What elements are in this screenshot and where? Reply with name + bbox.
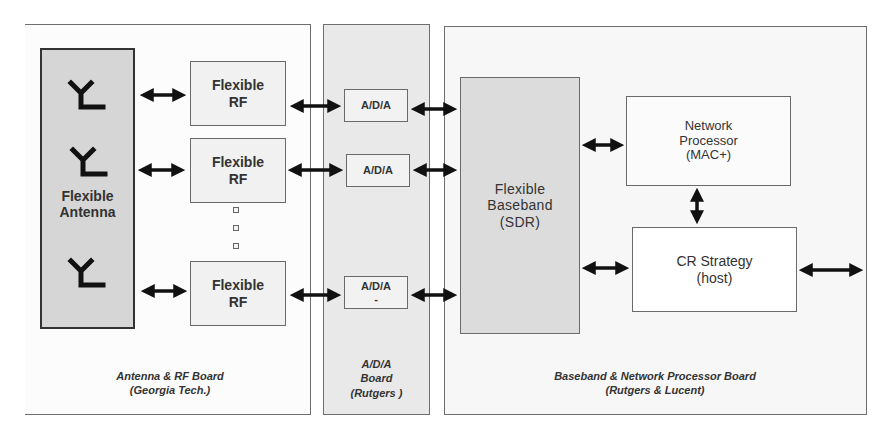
connection-arrows (0, 0, 887, 439)
